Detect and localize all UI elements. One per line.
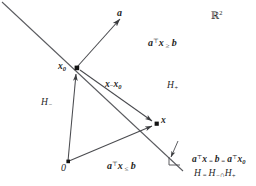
hyperplane-definition: H = H−∩H+ — [194, 169, 236, 179]
hyperplane-def-equals: = — [203, 171, 207, 178]
point-x-label: x — [161, 116, 166, 126]
vector-origin-to-x0 — [68, 74, 76, 161]
inequality-le-relation: ≤ — [125, 165, 129, 173]
hyperplane-eq-b: b — [215, 154, 220, 164]
hyperplane-callout-pointer — [171, 141, 178, 157]
normal-vector-a-arrow — [77, 19, 120, 67]
halfspace-minus-symbol: H — [41, 97, 48, 107]
hyperplane-eq-x2-subscript: 0 — [242, 158, 245, 165]
point-marker-x — [155, 122, 159, 126]
inequality-le-b: b — [131, 160, 136, 171]
normal-vector-a-label: a — [117, 8, 122, 18]
difference-vector-label: x−x0 — [105, 80, 122, 90]
vector-x0-to-x — [80, 70, 152, 121]
point-marker-origin — [66, 160, 70, 164]
difference-x0-subscript: 0 — [118, 83, 121, 90]
inequality-ge-relation: ≥ — [166, 42, 170, 50]
hyperplane-line — [2, 2, 183, 171]
hyperplane-eq-equals-2: = — [221, 157, 225, 164]
halfspace-plus-symbol: H — [167, 80, 174, 90]
halfspace-plus-sign: + — [174, 84, 178, 91]
point-marker-x0 — [75, 66, 80, 71]
inequality-ge-b: b — [172, 37, 177, 48]
halfspace-minus-label: H− — [41, 98, 52, 108]
inequality-le-x: x — [118, 160, 123, 171]
halfspace-plus-label: H+ — [167, 81, 178, 91]
hyperplane-eq-equals-1: = — [209, 157, 213, 164]
point-x0-subscript: 0 — [63, 65, 66, 72]
vector-origin-to-x — [69, 126, 152, 161]
ambient-space-label: ℝ2 — [211, 10, 223, 21]
halfspace-plus-inequality: a⊤x ≥ b — [148, 38, 177, 50]
hyperplane-def-Hplus-sign: + — [232, 172, 236, 179]
hyperplane-def-Hplus: H — [225, 168, 232, 178]
origin-label: 0 — [61, 163, 66, 173]
ambient-space-exponent: 2 — [219, 9, 222, 16]
hyperplane-equation: a⊤x = b = a⊤x0 — [192, 155, 245, 165]
hyperplane-eq-x1: x — [202, 154, 207, 164]
point-x0-label: x0 — [58, 62, 66, 72]
halfspace-minus-sign: − — [48, 101, 52, 108]
inequality-ge-x: x — [159, 37, 164, 48]
hyperplane-callout-bracket — [169, 157, 180, 165]
hyperplane-def-H: H — [194, 168, 201, 178]
halfspace-minus-inequality: a⊤x ≤ b — [107, 161, 136, 173]
hyperplane-halfspace-diagram: a ℝ2 a⊤x ≥ b x0 x−x0 H+ H− x 0 a⊤x ≤ b a… — [0, 0, 256, 186]
